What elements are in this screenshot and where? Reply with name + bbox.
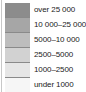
legend-swatch	[5, 63, 30, 78]
legend-item: 5000–10 000	[0, 33, 86, 48]
map-legend: over 25 000 10 000–25 000 5000–10 000 25…	[0, 0, 86, 92]
legend-swatch	[5, 33, 30, 48]
legend-label: 10 000–25 000	[34, 19, 86, 31]
legend-item: 1000–2500	[0, 63, 86, 78]
legend-item: 2500–5000	[0, 48, 86, 63]
legend-label: 2500–5000	[34, 49, 73, 61]
legend-label: over 25 000	[34, 4, 75, 16]
legend-item: 10 000–25 000	[0, 18, 86, 33]
legend-swatch	[5, 78, 30, 92]
legend-label: under 1000	[34, 79, 73, 91]
legend-item: under 1000	[0, 78, 86, 92]
legend-item: over 25 000	[0, 3, 86, 18]
legend-label: 5000–10 000	[34, 34, 80, 46]
legend-swatch	[5, 18, 30, 33]
legend-swatch	[5, 3, 30, 18]
legend-swatch	[5, 48, 30, 63]
legend-label: 1000–2500	[34, 64, 73, 76]
